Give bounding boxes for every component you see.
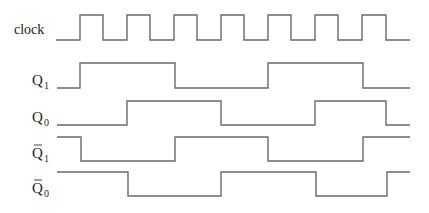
signal-subscript-q0: 0: [44, 117, 49, 128]
signal-q1: Q1: [32, 63, 410, 91]
signal-label-q0-bar: Q: [32, 180, 43, 196]
waveform-q1-bar: [57, 137, 410, 161]
timing-diagram: clockQ1Q0Q1Q0: [0, 0, 429, 213]
waveform-q0-bar: [57, 172, 410, 196]
signal-label-q1: Q: [32, 72, 43, 88]
signal-subscript-q0-bar: 0: [44, 188, 49, 199]
signal-q1-bar: Q1: [32, 137, 410, 164]
signal-label-clock: clock: [14, 22, 44, 37]
signal-subscript-q1-bar: 1: [44, 153, 49, 164]
waveform-clock: [56, 15, 410, 40]
signal-q0-bar: Q0: [32, 172, 410, 199]
waveform-q1: [57, 63, 410, 88]
signal-q0: Q0: [32, 101, 410, 128]
signal-subscript-q1: 1: [44, 80, 49, 91]
signal-clock: clock: [14, 15, 410, 40]
signals-group: clockQ1Q0Q1Q0: [14, 15, 410, 199]
signal-label-q1-bar: Q: [32, 145, 43, 161]
waveform-q0: [57, 101, 410, 125]
signal-label-q0: Q: [32, 109, 43, 125]
